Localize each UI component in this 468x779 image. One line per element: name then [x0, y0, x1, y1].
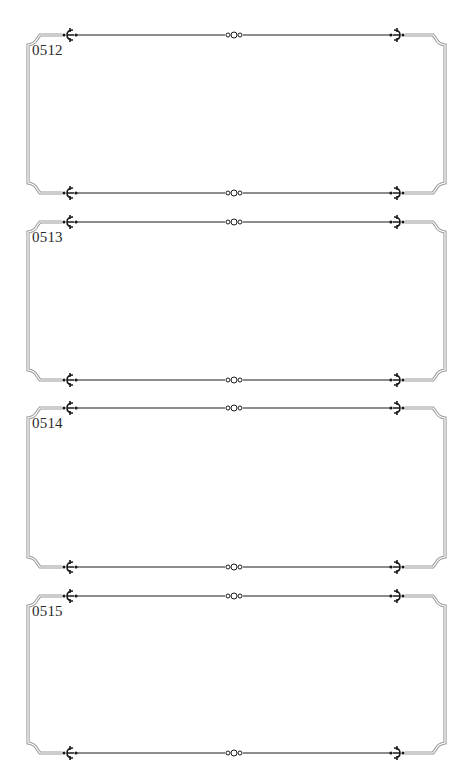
fleur-right-icon — [389, 589, 404, 603]
fleur-right-icon — [389, 186, 404, 200]
fleur-left-icon — [62, 746, 77, 760]
fleur-left-icon — [62, 401, 77, 415]
triple-circle-icon — [226, 405, 242, 411]
fleur-left-icon — [62, 215, 77, 229]
fleur-left-icon — [62, 186, 77, 200]
fleur-right-icon — [389, 401, 404, 415]
triple-circle-icon — [226, 219, 242, 225]
fleur-right-icon — [389, 746, 404, 760]
fleur-left-icon — [62, 28, 77, 42]
triple-circle-icon — [226, 564, 242, 570]
fleur-right-icon — [389, 28, 404, 42]
triple-circle-icon — [226, 190, 242, 196]
fleur-left-icon — [62, 589, 77, 603]
frame-borders — [0, 0, 468, 779]
fleur-left-icon — [62, 373, 77, 387]
fleur-right-icon — [389, 215, 404, 229]
fleur-left-icon — [62, 560, 77, 574]
triple-circle-icon — [226, 377, 242, 383]
fleur-right-icon — [389, 373, 404, 387]
triple-circle-icon — [226, 750, 242, 756]
fleur-right-icon — [389, 560, 404, 574]
triple-circle-icon — [226, 593, 242, 599]
triple-circle-icon — [226, 32, 242, 38]
